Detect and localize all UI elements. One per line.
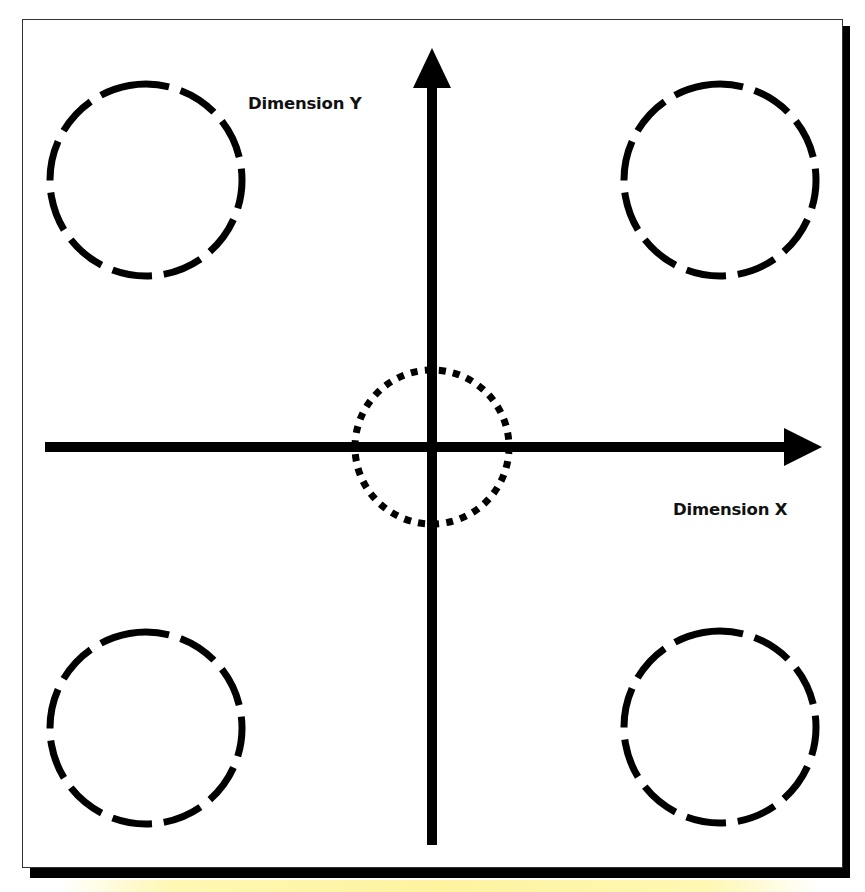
- frame-shadow-right: [843, 26, 850, 878]
- x-axis-label: Dimension X: [673, 500, 788, 519]
- x-axis-line: [45, 442, 790, 452]
- diagram-canvas: Dimension Y Dimension X: [0, 0, 865, 892]
- y-axis-label: Dimension Y: [248, 94, 363, 113]
- frame-shadow-bottom: [30, 868, 850, 878]
- y-axis-line: [427, 84, 437, 845]
